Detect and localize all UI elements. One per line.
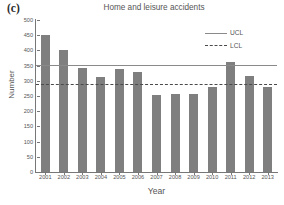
chart-legend: UCLLCL [205,26,279,52]
y-tick-label: 450 [7,32,33,38]
bar[interactable] [133,72,142,172]
bar[interactable] [245,76,254,172]
bar[interactable] [59,50,68,172]
x-tick-mark [45,172,46,175]
ucl-reference-line [36,65,277,66]
y-tick-label: 400 [7,47,33,53]
legend-label: LCL [230,42,242,49]
x-tick-mark [138,172,139,175]
x-axis-title: Year [36,186,277,196]
x-tick-mark [64,172,65,175]
y-tick-label: 150 [7,123,33,129]
legend-line-dashed-icon [205,43,227,49]
x-axis-ticks: 2001200220032004200520062007200820092010… [36,174,277,186]
x-tick-mark [157,172,158,175]
y-tick-label: 0 [7,169,33,175]
bar[interactable] [263,87,272,172]
x-tick-mark [268,172,269,175]
bar[interactable] [226,62,235,172]
bar[interactable] [189,94,198,172]
y-tick-mark [37,172,40,173]
bar[interactable] [208,87,217,172]
x-tick-mark [101,172,102,175]
bar[interactable] [41,35,50,172]
x-tick-mark [82,172,83,175]
x-tick-mark [119,172,120,175]
y-tick-label: 100 [7,139,33,145]
chart-title: Home and leisure accidents [30,3,278,12]
y-tick-label: 50 [7,154,33,160]
legend-line-solid-icon [205,30,227,36]
y-tick-label: 350 [7,63,33,69]
x-tick-mark [194,172,195,175]
legend-item-lcl[interactable]: LCL [205,39,279,52]
legend-item-ucl[interactable]: UCL [205,26,279,39]
y-tick-label: 250 [7,93,33,99]
x-tick-label: 2013 [256,174,280,180]
bar[interactable] [152,95,161,172]
lcl-reference-line [36,84,277,85]
x-tick-mark [231,172,232,175]
legend-label: UCL [230,29,243,36]
bar[interactable] [96,77,105,172]
y-tick-label: 500 [7,17,33,23]
x-tick-mark [175,172,176,175]
x-tick-mark [212,172,213,175]
bar[interactable] [171,94,180,172]
x-tick-mark [249,172,250,175]
y-tick-label: 300 [7,78,33,84]
y-axis-ticks: 050100150200250300350400450500 [5,0,33,205]
y-tick-label: 200 [7,108,33,114]
